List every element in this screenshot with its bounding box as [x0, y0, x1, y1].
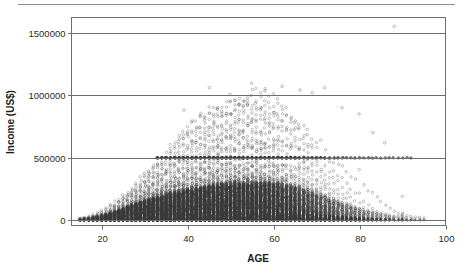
x-tick-label: 60 [269, 233, 280, 244]
x-tick-label: 20 [97, 233, 108, 244]
x-axis-title: AGE [247, 253, 269, 264]
y-axis-title: Income (US$) [5, 90, 16, 154]
y-axis-ticks: 050000010000001500000 [29, 28, 72, 226]
scatter-plot: 20406080100 050000010000001500000 AGE In… [0, 0, 466, 277]
figure-container: 20406080100 050000010000001500000 AGE In… [0, 0, 466, 277]
x-tick-label: 100 [439, 233, 455, 244]
y-tick-label: 500000 [34, 153, 66, 164]
x-tick-label: 80 [355, 233, 366, 244]
plot-svg: 20406080100 050000010000001500000 AGE In… [0, 0, 466, 277]
x-axis-ticks: 20406080100 [97, 226, 454, 244]
y-tick-label: 0 [60, 215, 65, 226]
data-points-layer [78, 25, 425, 221]
y-tick-label: 1500000 [29, 28, 66, 39]
x-tick-label: 40 [183, 233, 194, 244]
y-tick-label: 1000000 [29, 90, 66, 101]
